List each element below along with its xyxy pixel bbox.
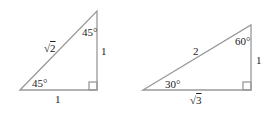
t2-horizontal-leg: √3 bbox=[190, 95, 202, 106]
t2-vertical-leg: 1 bbox=[256, 55, 262, 66]
right-angle-marker bbox=[243, 82, 251, 90]
t2-bottom-angle: 30° bbox=[165, 79, 180, 90]
t2-top-angle: 60° bbox=[235, 36, 250, 47]
t1-bottom-angle: 45° bbox=[32, 78, 47, 89]
t1-hypotenuse-label: √2 bbox=[44, 43, 56, 54]
t1-vertical-leg: 1 bbox=[101, 46, 107, 57]
t1-horizontal-leg: 1 bbox=[55, 94, 61, 105]
t2-hypotenuse-label: 2 bbox=[193, 46, 199, 57]
t1-top-angle: 45° bbox=[82, 27, 97, 38]
triangles-drawing bbox=[0, 0, 265, 116]
right-angle-marker bbox=[89, 82, 97, 90]
